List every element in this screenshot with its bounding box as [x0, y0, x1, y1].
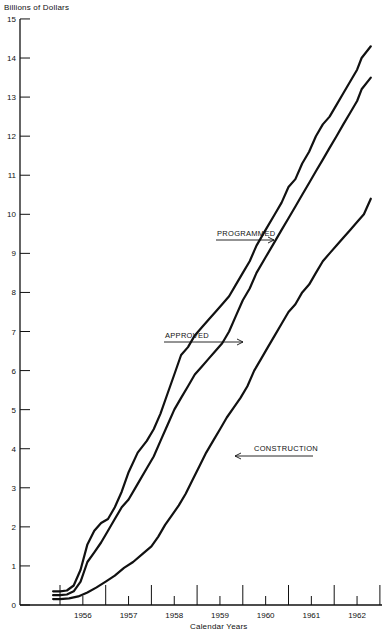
y-tick-label: 7: [12, 328, 17, 337]
x-tick-label: 1956: [74, 611, 92, 620]
series-line-construction: [53, 199, 371, 599]
y-tick-label: 9: [12, 249, 17, 258]
y-tick-label: 2: [12, 523, 17, 532]
annotations: PROGRAMMEDAPPROVEDCONSTRUCTION: [164, 229, 318, 459]
y-tick-label: 10: [7, 210, 16, 219]
series-line-programmed: [53, 46, 371, 591]
y-tick-label: 12: [7, 132, 16, 141]
y-tick-label: 4: [12, 445, 17, 454]
y-tick-label: 3: [12, 484, 17, 493]
y-tick-label: 5: [12, 406, 17, 415]
y-tick-label: 6: [12, 367, 17, 376]
line-chart: Billions of Dollars 01234567891011121314…: [0, 0, 390, 641]
x-tick-label: 1960: [257, 611, 275, 620]
axes: 0123456789101112131415195619571958195919…: [7, 15, 382, 620]
x-tick-label: 1961: [302, 611, 320, 620]
programmed-label: PROGRAMMED: [217, 229, 276, 238]
y-tick-label: 1: [12, 562, 17, 571]
series-lines: [53, 46, 371, 599]
y-axis-title: Billions of Dollars: [4, 3, 69, 12]
x-tick-label: 1959: [211, 611, 229, 620]
y-tick-label: 15: [7, 15, 16, 24]
x-tick-label: 1958: [165, 611, 183, 620]
approved-label: APPROVED: [165, 331, 209, 340]
series-line-approved: [53, 78, 371, 596]
construction-label: CONSTRUCTION: [254, 444, 318, 453]
y-tick-label: 0: [12, 601, 17, 610]
y-tick-label: 14: [7, 54, 16, 63]
y-tick-label: 13: [7, 93, 16, 102]
x-tick-label: 1962: [348, 611, 366, 620]
y-tick-label: 11: [8, 171, 17, 180]
x-tick-label: 1957: [120, 611, 138, 620]
chart-canvas: 0123456789101112131415195619571958195919…: [0, 0, 390, 641]
y-tick-label: 8: [12, 288, 17, 297]
x-axis-title: Calendar Years: [190, 622, 248, 631]
